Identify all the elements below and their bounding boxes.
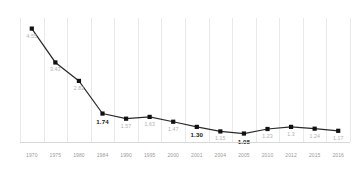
- data-point-label: 4.55: [27, 34, 38, 39]
- data-point-label: 1.23: [262, 134, 273, 139]
- data-point-marker: [100, 111, 104, 115]
- x-axis-line: [20, 142, 350, 143]
- data-point-marker: [313, 127, 317, 131]
- data-point-marker: [148, 115, 152, 119]
- x-axis-tick: 1970: [26, 152, 38, 158]
- x-axis-tick: 1975: [50, 152, 62, 158]
- x-axis-tick: 2000: [167, 152, 179, 158]
- data-point-label: 1.30: [191, 132, 203, 138]
- x-axis-tick: 1980: [73, 152, 85, 158]
- line-chart: 4.553.432.821.741.571.631.471.301.151.08…: [0, 0, 362, 173]
- data-point-label: 1.24: [309, 134, 320, 139]
- data-point-marker: [265, 127, 269, 131]
- data-point-marker: [53, 60, 57, 64]
- x-axis-tick: 2016: [332, 152, 344, 158]
- x-axis-tick: 1990: [120, 152, 132, 158]
- x-axis-tick: 2004: [215, 152, 227, 158]
- data-point-marker: [171, 120, 175, 124]
- data-point-label: 1.63: [144, 122, 155, 127]
- gridline: [350, 18, 351, 142]
- series-line: [20, 18, 350, 142]
- data-point-marker: [336, 129, 340, 133]
- data-point-label: 2.82: [74, 86, 85, 91]
- data-point-label: 3.43: [50, 67, 61, 72]
- data-point-marker: [195, 125, 199, 129]
- x-axis-tick: 1995: [144, 152, 156, 158]
- data-point-marker: [242, 131, 246, 135]
- data-point-label: 1.15: [215, 136, 226, 141]
- data-point-label: 1.3: [287, 132, 295, 137]
- data-point-marker: [218, 129, 222, 133]
- data-point-marker: [289, 125, 293, 129]
- data-point-label: 1.74: [96, 119, 108, 125]
- x-axis-tick: 2010: [262, 152, 274, 158]
- x-axis-tick: 2001: [191, 152, 203, 158]
- data-point-label: 1.57: [121, 124, 132, 129]
- data-point-label: 1.47: [168, 127, 179, 132]
- x-axis-tick: 2005: [238, 152, 250, 158]
- x-axis-tick: 2012: [285, 152, 297, 158]
- data-point-label: 1.17: [333, 136, 344, 141]
- plot-area: 4.553.432.821.741.571.631.471.301.151.08…: [20, 18, 350, 142]
- x-axis-tick: 1984: [97, 152, 109, 158]
- data-point-marker: [124, 117, 128, 121]
- x-axis-tick: 2015: [309, 152, 321, 158]
- data-point-marker: [30, 26, 34, 30]
- data-point-marker: [77, 79, 81, 83]
- x-axis-labels: 1970197519801984199019952000200120042005…: [20, 152, 350, 164]
